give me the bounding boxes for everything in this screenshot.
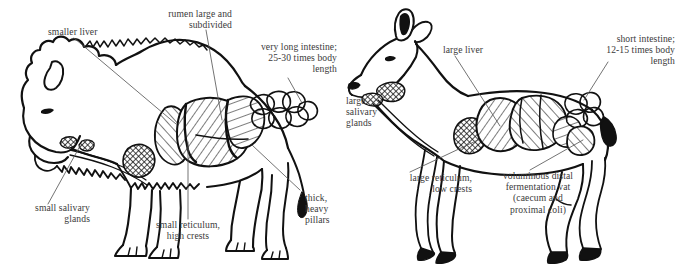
label-bison-reticulum: small reticulum, high crests: [138, 219, 238, 241]
bison-tail: [288, 148, 304, 195]
bison-hoof-fl: [115, 245, 147, 256]
bison-hind-leg-far: [266, 175, 272, 250]
label-bison-intestine: very long intestine; 25-30 times body le…: [233, 41, 337, 75]
bison-rumen-dorsal-sac: [226, 96, 264, 148]
label-deer-large-liver: large liver: [443, 44, 483, 55]
label-bison-rumen: rumen large and subdivided: [120, 8, 232, 30]
leader-bison-smaller-liver: [74, 38, 176, 124]
deer-fermentation-vat: [567, 126, 594, 155]
label-bison-salivary-glands: small salivary glands: [6, 202, 90, 224]
anatomy-figure: smaller liver rumen large and subdivided…: [0, 0, 679, 269]
bison-belly: [207, 169, 262, 187]
bison-hoof-hr-split: [271, 251, 280, 259]
bison-hoof-fl-split: [128, 247, 137, 256]
bison-eye: [41, 109, 54, 114]
label-bison-smaller-liver: smaller liver: [48, 26, 98, 37]
leader-bison-pillars: [252, 145, 300, 190]
label-deer-reticulum: large reticulum, low crests: [368, 172, 472, 194]
deer-tail: [601, 117, 617, 146]
bison-horn: [44, 61, 63, 89]
deer-ear-near-fill: [399, 13, 410, 35]
bison-hind-leg-far-back: [283, 163, 288, 248]
bison-hoof-hl: [226, 240, 254, 251]
label-deer-fermentation-vat: voluminous distal fermentation vat (caec…: [478, 170, 598, 215]
bison-hind-leg-near-back: [253, 169, 262, 247]
deer-esophagus: [378, 100, 438, 152]
deer-hoof-hl: [548, 252, 568, 263]
deer-cheek: [404, 41, 417, 75]
bison-reticulum: [123, 144, 155, 177]
deer-nose: [348, 83, 360, 89]
deer-ear-far: [412, 22, 432, 42]
label-bison-pillars: thick, heavy pillars: [305, 192, 330, 226]
bison-hoof-fr-split: [162, 249, 171, 258]
bison-salivary-gland-1: [60, 137, 77, 148]
bison-hoof-hl-split: [236, 243, 245, 251]
deer-eye: [385, 56, 396, 61]
leader-bison-salivary: [48, 146, 80, 204]
deer-hoof-fl: [436, 252, 455, 263]
label-deer-salivary-glands: large salivary glands: [346, 95, 377, 129]
label-deer-intestine: short intestine; 12-15 times body length: [570, 33, 675, 67]
deer-hoof-hr: [580, 248, 601, 260]
bison-front-leg-near: [123, 188, 131, 245]
deer-front-leg-far: [416, 150, 425, 248]
bison-salivary-gland-2: [79, 140, 94, 151]
